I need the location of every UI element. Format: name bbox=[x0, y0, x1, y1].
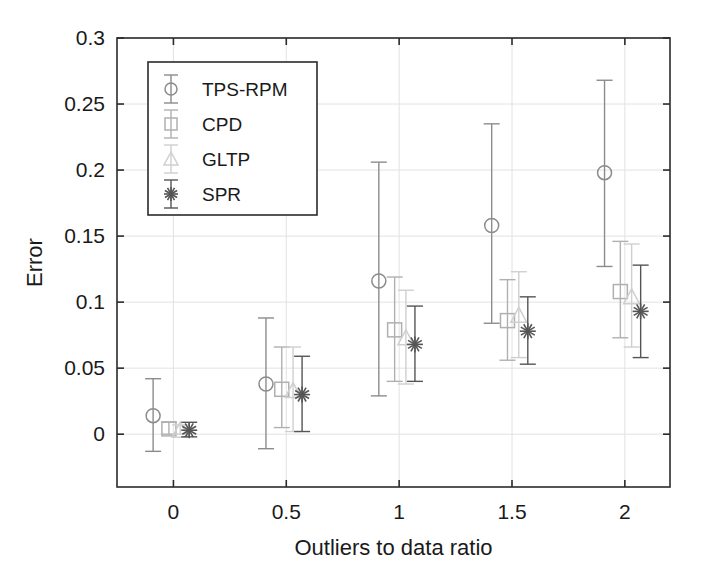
legend-label: TPS-RPM bbox=[202, 79, 288, 100]
x-axis-title: Outliers to data ratio bbox=[294, 535, 492, 560]
y-tick-label: 0.1 bbox=[76, 290, 105, 313]
y-tick-label: 0.15 bbox=[64, 224, 105, 247]
y-tick-label: 0.2 bbox=[76, 158, 105, 181]
chart-figure: 00.050.10.150.20.250.300.511.52 Outliers… bbox=[0, 0, 701, 577]
error-plot-svg: 00.050.10.150.20.250.300.511.52 Outliers… bbox=[0, 0, 701, 577]
y-axis-title: Error bbox=[22, 238, 47, 287]
legend-label: SPR bbox=[202, 184, 241, 205]
x-tick-label: 1.5 bbox=[497, 500, 526, 523]
x-tick-label: 0 bbox=[168, 500, 180, 523]
y-tick-label: 0.25 bbox=[64, 92, 105, 115]
y-tick-label: 0 bbox=[93, 422, 105, 445]
x-tick-label: 2 bbox=[619, 500, 631, 523]
y-tick-label: 0.05 bbox=[64, 356, 105, 379]
legend-label: CPD bbox=[202, 114, 242, 135]
legend: TPS-RPMCPDGLTPSPR bbox=[148, 62, 317, 215]
chart-background bbox=[0, 0, 701, 577]
y-tick-label: 0.3 bbox=[76, 26, 105, 49]
legend-label: GLTP bbox=[202, 149, 250, 170]
x-tick-label: 0.5 bbox=[272, 500, 301, 523]
x-tick-label: 1 bbox=[393, 500, 405, 523]
